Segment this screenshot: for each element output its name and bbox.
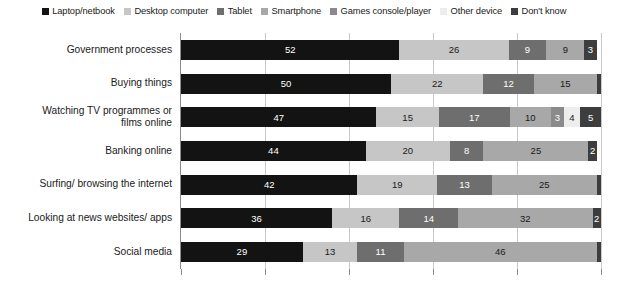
bar-row[interactable]: 29131146	[181, 242, 601, 262]
bar-segment-value: 20	[403, 146, 414, 156]
bar-segment[interactable]: 15	[376, 107, 438, 127]
bar-segment-value: 8	[464, 146, 469, 156]
chart-legend: Laptop/netbookDesktop computerTabletSmar…	[0, 7, 617, 16]
legend-swatch-dontknow	[511, 8, 518, 15]
axis-tick	[517, 269, 518, 275]
axis-tick	[601, 269, 602, 275]
bar-segment[interactable]: 9	[546, 40, 584, 60]
legend-item[interactable]: Desktop computer	[124, 7, 208, 16]
bar-row[interactable]: 5226993	[181, 40, 601, 60]
bar-segment-value: 3	[588, 45, 593, 55]
legend-swatch-console	[330, 8, 337, 15]
axis-tick	[349, 269, 350, 275]
bar-segment-value: 19	[392, 180, 403, 190]
legend-swatch-tablet	[217, 8, 224, 15]
bar-segment[interactable]: 22	[391, 74, 483, 94]
bar-segment[interactable]: 14	[399, 208, 458, 228]
bar-segment-value: 42	[264, 180, 275, 190]
category-label: Watching TV programmes orfilms online	[0, 105, 172, 130]
bar-row[interactable]: 50221215	[181, 74, 601, 94]
bar-segment[interactable]: 4	[564, 107, 581, 127]
bar-segment[interactable]: 26	[399, 40, 508, 60]
bar-segment-value: 50	[281, 79, 292, 89]
plot-area: 5226993502212154715171034544208252421913…	[180, 33, 601, 269]
bar-segment-value: 4	[569, 113, 574, 123]
category-label-line: Buying things	[0, 77, 172, 90]
bar-segment-value: 2	[594, 214, 599, 224]
bar-segment-value: 2	[590, 146, 595, 156]
bar-segment[interactable]: 46	[404, 242, 597, 262]
bar-segment-value: 3	[555, 113, 560, 123]
legend-item[interactable]: Laptop/netbook	[42, 7, 115, 16]
bar-segment[interactable]: 36	[181, 208, 332, 228]
bar-row[interactable]: 42191325	[181, 175, 601, 195]
bar-segment[interactable]: 19	[357, 175, 437, 195]
bar-segment-value: 32	[520, 214, 531, 224]
legend-label: Tablet	[228, 7, 252, 16]
bar-segment[interactable]	[597, 242, 601, 262]
legend-label: Smartphone	[271, 7, 321, 16]
bar-segment[interactable]: 32	[458, 208, 592, 228]
category-label-line: Banking online	[0, 145, 172, 158]
bar-segment[interactable]: 17	[439, 107, 510, 127]
bar-segment[interactable]: 15	[534, 74, 597, 94]
bar-segment-value: 9	[563, 45, 568, 55]
bar-segment[interactable]: 42	[181, 175, 357, 195]
bar-segment-value: 15	[560, 79, 571, 89]
bar-row[interactable]: 44208252	[181, 141, 601, 161]
bar-segment[interactable]: 20	[366, 141, 450, 161]
legend-label: Don't know	[522, 7, 567, 16]
bar-segment[interactable]	[597, 74, 601, 94]
axis-tick	[433, 269, 434, 275]
bar-segment[interactable]: 47	[181, 107, 376, 127]
category-label: Banking online	[0, 145, 172, 158]
bar-segment[interactable]: 44	[181, 141, 366, 161]
category-label: Government processes	[0, 44, 172, 57]
bar-segment[interactable]: 16	[332, 208, 399, 228]
bar-segment[interactable]: 5	[580, 107, 601, 127]
legend-item[interactable]: Other device	[440, 7, 502, 16]
bar-segment[interactable]: 12	[483, 74, 533, 94]
bar-segment-value: 26	[449, 45, 460, 55]
bar-segment[interactable]: 13	[437, 175, 492, 195]
bar-segment[interactable]: 29	[181, 242, 303, 262]
bar-segment-value: 9	[525, 45, 530, 55]
legend-label: Other device	[451, 7, 503, 16]
bar-segment[interactable]: 13	[303, 242, 358, 262]
bar-segment[interactable]	[597, 175, 601, 195]
bar-segment[interactable]: 25	[492, 175, 597, 195]
bar-segment[interactable]: 2	[593, 208, 601, 228]
bar-segment-value: 22	[432, 79, 443, 89]
bar-segment-value: 17	[469, 113, 480, 123]
bar-segment[interactable]: 52	[181, 40, 399, 60]
bar-segment[interactable]: 3	[551, 107, 563, 127]
bar-segment-value: 12	[503, 79, 514, 89]
bar-segment-value: 13	[459, 180, 470, 190]
bar-segment[interactable]: 2	[588, 141, 596, 161]
bar-segment-value: 46	[495, 247, 506, 257]
legend-item[interactable]: Smartphone	[261, 7, 321, 16]
bar-segment[interactable]: 11	[357, 242, 403, 262]
bar-segment-value: 25	[539, 180, 550, 190]
bar-row[interactable]: 47151710345	[181, 107, 601, 127]
bar-segment[interactable]: 50	[181, 74, 391, 94]
gridline	[601, 33, 602, 269]
bar-row[interactable]: 361614322	[181, 208, 601, 228]
category-label: Social media	[0, 246, 172, 259]
category-label-line: Looking at news websites/ apps	[0, 212, 172, 225]
legend-item[interactable]: Games console/player	[330, 7, 431, 16]
bar-segment[interactable]: 25	[483, 141, 588, 161]
legend-label: Games console/player	[341, 7, 432, 16]
legend-item[interactable]: Tablet	[217, 7, 252, 16]
legend-swatch-laptop	[42, 8, 49, 15]
bar-segment[interactable]: 8	[450, 141, 484, 161]
bar-segment[interactable]: 10	[510, 107, 552, 127]
category-label: Surfing/ browsing the internet	[0, 178, 172, 191]
stacked-bar-chart: Laptop/netbookDesktop computerTabletSmar…	[0, 0, 617, 284]
legend-swatch-smartphone	[261, 8, 268, 15]
category-label-line: films online	[0, 117, 172, 130]
legend-item[interactable]: Don't know	[511, 7, 566, 16]
bar-segment-value: 14	[423, 214, 434, 224]
bar-segment[interactable]: 9	[509, 40, 547, 60]
bar-segment[interactable]: 3	[584, 40, 597, 60]
